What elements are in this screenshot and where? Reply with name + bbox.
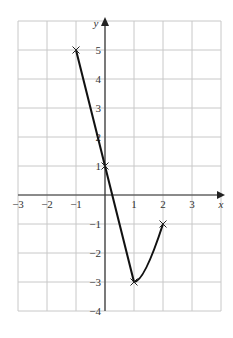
x-tick-label: −3 [12, 198, 24, 210]
y-tick-label: −4 [89, 305, 101, 317]
x-tick-label: 3 [189, 198, 195, 210]
y-tick-label: 3 [96, 102, 102, 114]
y-tick-label: 4 [96, 73, 102, 85]
x-tick-label: −1 [70, 198, 82, 210]
function-graph: −3−2−1123−4−3−2−112345xy [0, 0, 233, 338]
y-axis-label: y [93, 17, 99, 29]
x-axis-label: x [218, 198, 224, 210]
x-tick-label: −2 [41, 198, 53, 210]
y-tick-label: 1 [96, 160, 102, 172]
y-tick-label: 5 [96, 44, 102, 56]
y-tick-label: −2 [89, 247, 101, 259]
x-tick-label: 2 [160, 198, 166, 210]
y-tick-label: −1 [89, 218, 101, 230]
x-tick-label: 1 [131, 198, 137, 210]
y-tick-label: −3 [89, 276, 101, 288]
